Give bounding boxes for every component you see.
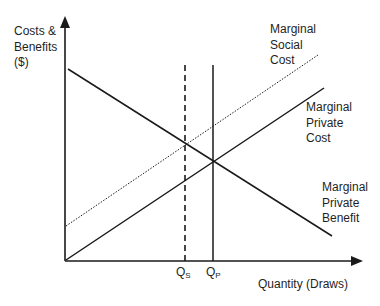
mpc-label: Marginal Private Cost [306, 100, 352, 147]
qp-label-sub: P [215, 271, 220, 280]
mpb-line [68, 69, 332, 236]
msc-label: Marginal Social Cost [270, 22, 316, 69]
msc-line [66, 55, 318, 226]
y-axis-label: Costs & Benefits ($) [14, 24, 57, 71]
qs-label-main: Q [176, 265, 185, 279]
qp-label: QP [206, 265, 221, 280]
y-axis-arrow-icon [60, 16, 70, 28]
x-axis-arrow-icon [351, 256, 363, 266]
mpb-label: Marginal Private Benefit [322, 180, 368, 227]
qp-label-main: Q [206, 265, 215, 279]
qs-label: QS [176, 265, 191, 280]
qs-label-sub: S [185, 271, 190, 280]
mpc-line [66, 88, 324, 260]
x-axis-label: Quantity (Draws) [258, 277, 348, 293]
